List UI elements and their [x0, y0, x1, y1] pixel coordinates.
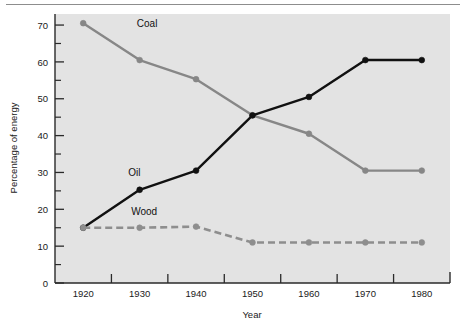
- data-point-wood: [250, 240, 256, 246]
- data-point-wood: [80, 225, 86, 231]
- y-tick-label: 70: [37, 20, 48, 31]
- data-point-coal: [362, 168, 368, 174]
- data-point-coal: [419, 168, 425, 174]
- series-label-wood: Wood: [131, 206, 157, 217]
- data-point-oil: [137, 187, 143, 193]
- data-point-oil: [193, 168, 199, 174]
- y-axis-tick-labels: 010203040506070: [37, 20, 48, 289]
- data-point-wood: [193, 224, 199, 230]
- data-point-oil: [250, 112, 256, 118]
- x-axis-title: Year: [242, 309, 261, 320]
- x-tick-label: 1960: [298, 288, 319, 299]
- y-tick-label: 10: [37, 241, 48, 252]
- data-point-coal: [193, 76, 199, 82]
- x-axis-tick-labels: 1920193019401950196019701980: [73, 288, 433, 299]
- x-tick-label: 1950: [242, 288, 263, 299]
- series-label-oil: Oil: [128, 167, 140, 178]
- data-point-wood: [306, 240, 312, 246]
- y-tick-label: 20: [37, 204, 48, 215]
- x-tick-label: 1930: [129, 288, 150, 299]
- y-tick-label: 0: [43, 278, 48, 289]
- data-point-oil: [419, 57, 425, 63]
- data-point-wood: [137, 225, 143, 231]
- data-point-coal: [137, 57, 143, 63]
- x-tick-label: 1980: [411, 288, 432, 299]
- x-tick-label: 1920: [73, 288, 94, 299]
- data-point-oil: [306, 94, 312, 100]
- data-point-oil: [362, 57, 368, 63]
- series-label-coal: Coal: [137, 18, 158, 29]
- y-tick-label: 50: [37, 93, 48, 104]
- data-point-coal: [306, 131, 312, 137]
- x-tick-label: 1970: [355, 288, 376, 299]
- data-point-coal: [80, 20, 86, 26]
- y-tick-label: 30: [37, 167, 48, 178]
- y-tick-label: 40: [37, 130, 48, 141]
- data-point-wood: [362, 240, 368, 246]
- data-point-wood: [419, 240, 425, 246]
- y-tick-label: 60: [37, 57, 48, 68]
- line-chart: 010203040506070 192019301940195019601970…: [0, 0, 466, 328]
- y-axis-title: Percentage of energy: [8, 102, 19, 193]
- x-tick-label: 1940: [186, 288, 207, 299]
- figure-container: 010203040506070 192019301940195019601970…: [0, 0, 466, 328]
